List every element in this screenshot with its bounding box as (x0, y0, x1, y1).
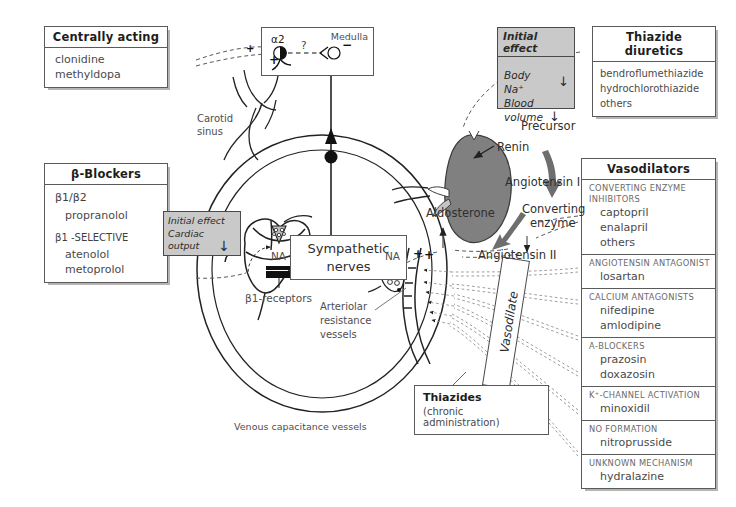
medulla-contents (0, 0, 736, 507)
aldosterone-plus-sign: + (424, 250, 434, 260)
medulla-minus-sign: − (342, 40, 352, 50)
vessel-plus-sign: + (413, 249, 423, 259)
medulla-entry-plus-sign: + (246, 44, 254, 54)
medulla-neuron-symbol (320, 47, 340, 59)
medulla-plus-sign: + (269, 55, 279, 65)
diagram-canvas: Centrally acting clonidine methyldopa Th… (0, 0, 736, 507)
